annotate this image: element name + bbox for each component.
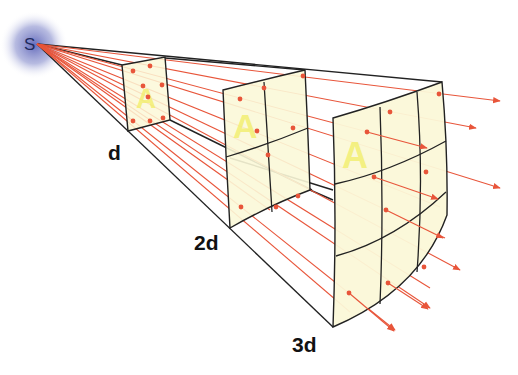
panel-d: A — [122, 57, 170, 131]
area-letter-a-3: A — [342, 135, 368, 176]
distance-label-2d: 2d — [194, 232, 219, 253]
area-letter-a-2: A — [233, 107, 258, 145]
area-letter-a-1: A — [136, 83, 156, 114]
distance-label-3d: 3d — [292, 334, 317, 355]
inverse-square-diagram: A A A — [0, 0, 518, 375]
source-label: S — [24, 36, 35, 53]
panel-3d: A — [333, 82, 447, 327]
panel-2d: A — [223, 70, 310, 228]
distance-label-d: d — [108, 142, 121, 163]
